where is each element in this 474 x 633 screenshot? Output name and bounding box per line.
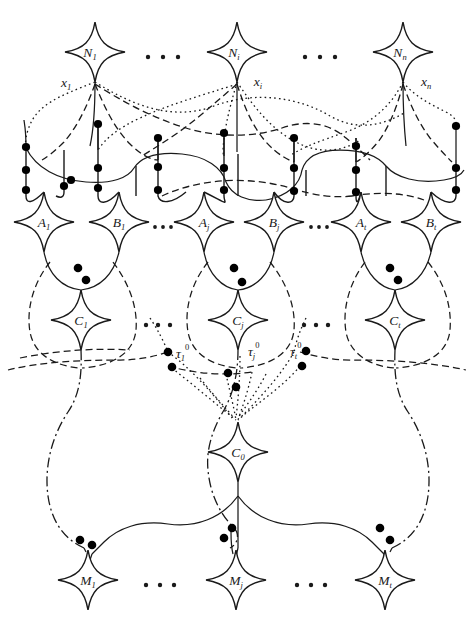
- node-label-B1: B: [113, 215, 121, 230]
- node-Bj[interactable]: Bj: [244, 192, 304, 252]
- node-sub-C0: 0: [240, 452, 245, 462]
- node-M1[interactable]: M1: [58, 550, 118, 610]
- ab-stems: [26, 124, 456, 202]
- diagram-canvas: N1 x1 Ni xi Nn xn A1 B1 Aj Bj: [0, 0, 474, 633]
- node-C0[interactable]: C0: [208, 422, 268, 482]
- node-label-Mt: M: [377, 573, 390, 588]
- svg-text:xi: xi: [253, 74, 263, 91]
- node-A1[interactable]: A1: [14, 192, 74, 252]
- edge-sub-x1: 1: [67, 82, 71, 92]
- node-B1[interactable]: B1: [89, 192, 149, 252]
- node-C1[interactable]: C1: [51, 290, 111, 350]
- node-sub-A1: 1: [46, 222, 50, 232]
- tau-label-j: τj0: [248, 340, 259, 361]
- ellipsis-ab-1: [153, 225, 173, 229]
- node-sub-N1: 1: [92, 52, 96, 62]
- node-label-M1: M: [79, 573, 92, 588]
- tau-label-t: τt0: [290, 340, 301, 361]
- node-label-Bj: B: [269, 215, 277, 230]
- edge-label-xi: x: [253, 74, 260, 89]
- node-Nn[interactable]: Nn xn: [373, 22, 433, 91]
- node-Ct[interactable]: Ct: [365, 290, 425, 350]
- ellipsis-n-1: [146, 55, 180, 59]
- edge-sub-xn: n: [427, 81, 431, 91]
- node-Ni[interactable]: Ni xi: [207, 22, 267, 91]
- node-sub-B1: 1: [121, 222, 125, 232]
- graph-diagram-svg: N1 x1 Ni xi Nn xn A1 B1 Aj Bj: [0, 0, 474, 633]
- node-sub-Nn: n: [402, 52, 406, 62]
- tau-label-1: τ10: [176, 342, 189, 363]
- ellipsis-n-2: [303, 55, 337, 59]
- node-Bt[interactable]: Bt: [401, 192, 461, 252]
- svg-text:x1: x1: [60, 75, 71, 92]
- node-N1[interactable]: N1 x1: [60, 22, 125, 92]
- ellipsis-c-1: [144, 323, 172, 327]
- node-At[interactable]: At: [331, 192, 391, 252]
- node-sub-C1: 1: [83, 320, 87, 330]
- svg-text:xn: xn: [420, 74, 431, 91]
- ellipsis-ab-2: [309, 225, 329, 229]
- node-Mt[interactable]: Mt: [355, 550, 415, 610]
- edge-label-x1: x: [60, 75, 67, 90]
- edge-sub-xi: i: [260, 81, 263, 91]
- ab-to-c-solid: [44, 252, 431, 292]
- ellipsis-c-2: [302, 323, 330, 327]
- node-sub-M1: 1: [92, 580, 96, 590]
- node-label-Bt: B: [426, 215, 434, 230]
- edge-label-xn: x: [420, 74, 427, 89]
- ellipsis-m-2: [295, 583, 327, 587]
- c0-to-m-solid: [90, 482, 386, 560]
- node-label-Mj: M: [228, 573, 241, 588]
- ellipsis-m-1: [144, 583, 176, 587]
- node-Mj[interactable]: Mj: [206, 550, 266, 610]
